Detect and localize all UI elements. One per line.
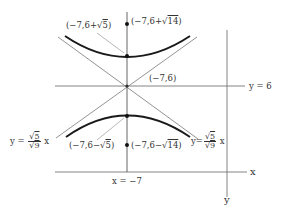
leader-vertex-bottom	[97, 118, 124, 140]
radicand: 14	[168, 16, 179, 26]
label-prefix: (−7,6+	[66, 20, 97, 30]
vertex-top-label: (−7,6+√5)	[66, 21, 111, 30]
numerator: 5	[210, 132, 215, 141]
eq-suffix: x	[42, 136, 50, 146]
center-dot	[125, 84, 128, 87]
eq-prefix: y=	[191, 136, 203, 146]
vertex-bottom-dot	[125, 114, 129, 118]
numerator: 5	[34, 132, 39, 141]
label-suffix: )	[111, 140, 114, 150]
denominator: 9	[34, 141, 39, 150]
fraction: √5√9	[28, 133, 40, 151]
hyperbola-upper-branch	[65, 36, 190, 57]
asymptote-right-label: y=√5√9 x	[191, 133, 225, 151]
denominator: 9	[210, 141, 215, 150]
vertex-top-dot	[125, 54, 129, 58]
asymptote-negative	[58, 37, 198, 139]
label-prefix: (−7,6+	[131, 16, 162, 26]
focus-top-label: (−7,6+√14)	[131, 17, 182, 26]
radicand: 14	[168, 140, 179, 150]
focus-top-dot	[125, 22, 129, 26]
label-suffix: )	[178, 140, 181, 150]
asymptote-left-label: y = √5√9 x	[10, 133, 49, 151]
line-x-minus-7-label: x = −7	[112, 177, 142, 186]
y-axis-label: y	[224, 195, 230, 205]
label-prefix: (−7,6−	[131, 140, 162, 150]
eq-suffix: x	[217, 136, 225, 146]
fraction: √5√9	[204, 133, 216, 151]
label-suffix: )	[108, 20, 111, 30]
center-label: (−7,6)	[149, 74, 176, 83]
leader-vertex-top	[97, 33, 124, 53]
focus-bottom-dot	[125, 143, 129, 147]
line-y-6-label: y = 6	[249, 82, 272, 91]
focus-bottom-label: (−7,6−√14)	[131, 141, 182, 150]
x-axis-label: x	[250, 167, 256, 177]
hyperbola-lower-branch	[66, 116, 190, 138]
vertex-bottom-label: (−7,6−√5)	[69, 141, 114, 150]
label-prefix: (−7,6−	[69, 140, 100, 150]
label-suffix: )	[178, 16, 181, 26]
eq-prefix: y =	[10, 136, 27, 146]
